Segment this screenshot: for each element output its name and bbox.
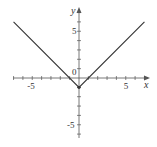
origin-label: 0 xyxy=(72,67,77,77)
y-tick-label-neg5: -5 xyxy=(67,120,75,130)
x-axis-label: x xyxy=(143,79,149,90)
x-tick-label-neg5: -5 xyxy=(27,81,35,91)
x-tick-label-5: 5 xyxy=(124,81,129,91)
chart-svg: x y 0 -5 5 5 -5 xyxy=(0,0,157,147)
y-tick-label-5: 5 xyxy=(72,26,77,36)
axis-labels: x y 0 -5 5 5 -5 xyxy=(27,5,149,130)
vertex-point xyxy=(77,86,80,89)
chart-container: x y 0 -5 5 5 -5 xyxy=(0,0,157,147)
y-axis-arrow-icon xyxy=(77,7,82,13)
y-axis-label: y xyxy=(70,5,76,16)
axes xyxy=(13,7,150,138)
